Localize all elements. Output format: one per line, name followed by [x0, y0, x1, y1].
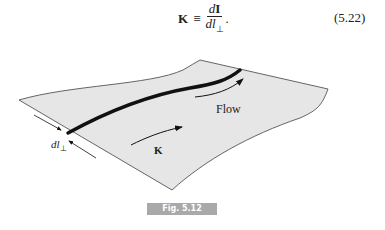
surface-current-figure: Flow K dl⊥: [0, 0, 385, 230]
width-label: dl⊥: [51, 138, 67, 153]
conducting-sheet: [19, 60, 328, 190]
figure-caption: Fig. 5.12: [147, 203, 217, 215]
width-arrow-lower-icon: [69, 141, 96, 158]
flow-label: Flow: [216, 102, 241, 116]
k-label: K: [154, 144, 163, 156]
